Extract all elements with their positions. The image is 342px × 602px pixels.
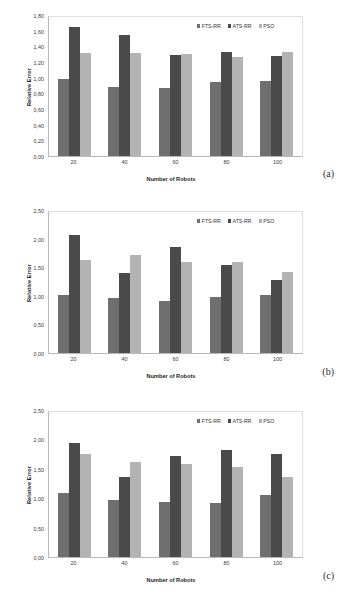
bar-group [58,412,91,557]
y-tick-label: 0,50 [34,322,45,328]
y-tick-label: 0,00 [34,555,45,561]
legend-item-ats-rr: ATS-RR [228,418,252,424]
bar-ats-rr-100 [271,454,282,557]
legend-swatch-icon [259,24,262,27]
x-axis-title: Number of Robots [0,373,342,379]
bar-group [108,17,141,156]
y-tick-label: 2,00 [34,437,45,443]
bar-pso-60 [181,262,192,353]
x-tick-label: 60 [150,560,201,566]
bar-pso-100 [282,52,293,156]
bar-ats-rr-80 [221,265,232,353]
y-tick-label: 2,00 [34,237,45,243]
chart-legend: FTS-RRATS-RRPSO [197,418,274,424]
legend-label: FTS-RR [202,23,221,29]
y-tick-label: 0,40 [34,123,45,129]
plot-area [48,211,303,354]
bar-fts-rr-80 [210,82,221,156]
x-axis-ticks: 20406080100 [48,356,303,362]
bar-pso-40 [130,53,141,156]
bar-fts-rr-40 [108,500,119,557]
y-tick-label: 0,00 [34,351,45,357]
y-axis-ticks: 0,000,501,001,502,002,50 [20,411,44,558]
y-tick-label: 1,40 [34,44,45,50]
y-tick-label: 1,50 [34,467,45,473]
chart-panel-a: Relative Error0,000,200,400,600,801,001,… [0,0,342,198]
bar-group [58,212,91,353]
x-tick-label: 80 [201,560,252,566]
bar-fts-rr-80 [210,503,221,557]
bar-ats-rr-60 [170,456,181,557]
legend-item-ats-rr: ATS-RR [228,218,252,224]
legend-label: ATS-RR [233,23,252,29]
plot-area [48,411,303,558]
legend-item-pso: PSO [259,418,275,424]
legend-item-fts-rr: FTS-RR [197,418,221,424]
y-tick-label: 1,00 [34,496,45,502]
bar-pso-40 [130,255,141,353]
bar-fts-rr-60 [159,301,170,353]
bar-pso-100 [282,272,293,353]
x-tick-label: 20 [48,159,99,165]
bar-group [159,412,192,557]
bar-group [159,212,192,353]
bar-pso-100 [282,477,293,557]
x-tick-label: 60 [150,159,201,165]
y-tick-label: 1,80 [34,13,45,19]
legend-swatch-icon [197,24,200,27]
legend-label: PSO [263,418,274,424]
legend-swatch-icon [228,219,231,222]
bar-groups [49,412,302,557]
panel-tag: (c) [323,570,334,581]
y-tick-label: 0,00 [34,154,45,160]
x-tick-label: 100 [252,356,303,362]
y-tick-label: 1,60 [34,29,45,35]
x-tick-label: 20 [48,560,99,566]
bar-group [210,17,243,156]
bar-fts-rr-60 [159,88,170,156]
panel-tag: (b) [322,366,334,377]
y-tick-label: 1,50 [34,265,45,271]
legend-item-fts-rr: FTS-RR [197,218,221,224]
x-tick-label: 80 [201,159,252,165]
bar-ats-rr-20 [69,443,80,557]
x-axis-ticks: 20406080100 [48,159,303,165]
bar-fts-rr-20 [58,295,69,353]
bar-pso-40 [130,462,141,557]
x-axis-title: Number of Robots [0,176,342,182]
bar-ats-rr-60 [170,55,181,156]
bar-ats-rr-100 [271,280,282,353]
bar-ats-rr-20 [69,27,80,156]
bar-group [108,212,141,353]
legend-swatch-icon [228,24,231,27]
legend-swatch-icon [259,419,262,422]
y-tick-label: 1,20 [34,60,45,66]
bar-group [108,412,141,557]
panel-c-inner: Relative Error0,000,501,001,502,002,50FT… [0,398,342,602]
y-tick-label: 2,50 [34,208,45,214]
chart-legend: FTS-RRATS-RRPSO [197,23,274,29]
legend-swatch-icon [197,419,200,422]
bar-group [260,17,293,156]
x-tick-label: 80 [201,356,252,362]
legend-item-pso: PSO [259,23,275,29]
x-tick-label: 40 [99,159,150,165]
bar-pso-80 [232,57,243,156]
x-axis-title: Number of Robots [0,577,342,583]
x-tick-label: 60 [150,356,201,362]
legend-swatch-icon [228,419,231,422]
legend-label: PSO [263,218,274,224]
bar-fts-rr-40 [108,87,119,157]
legend-swatch-icon [197,219,200,222]
bar-pso-80 [232,467,243,557]
bar-pso-80 [232,262,243,353]
legend-item-fts-rr: FTS-RR [197,23,221,29]
chart-legend: FTS-RRATS-RRPSO [197,218,274,224]
bar-fts-rr-100 [260,81,271,156]
bar-pso-60 [181,54,192,156]
panel-tag: (a) [323,168,334,179]
bar-ats-rr-40 [119,35,130,156]
bar-fts-rr-60 [159,502,170,557]
bar-fts-rr-80 [210,297,221,353]
x-tick-label: 20 [48,356,99,362]
